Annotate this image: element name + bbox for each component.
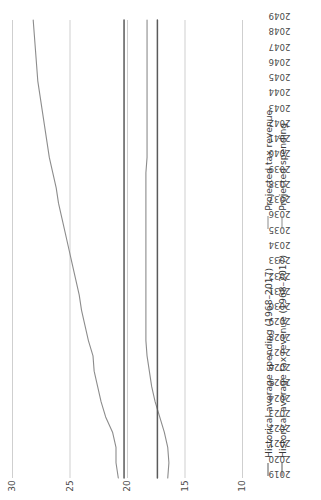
series-line — [33, 20, 118, 478]
series-group — [33, 20, 169, 478]
legend-item-label: Projected spending — [276, 123, 287, 211]
legend-columns: Historical average spending (1968–2017)H… — [262, 24, 287, 476]
legend-item[interactable]: Historical average tax revenue (1968–201… — [276, 255, 287, 476]
plot-svg-wrapper — [12, 20, 242, 478]
legend-line-swatch — [267, 463, 268, 476]
rotated-chart-canvas: 1015202530 20192020202120222023202420252… — [0, 0, 321, 500]
legend-item-label: Historical average spending (1968–2017) — [262, 268, 273, 458]
legend-column-right: Projected tax revenueProjected spending — [262, 110, 287, 229]
value-axis-tick-label: 10 — [237, 480, 246, 500]
legend-item[interactable]: Projected spending — [276, 110, 287, 229]
chart-legend: Historical average spending (1968–2017)H… — [262, 24, 287, 476]
legend-item[interactable]: Historical average spending (1968–2017) — [262, 255, 273, 476]
value-axis-tick-label: 25 — [65, 480, 74, 500]
legend-item-label: Projected tax revenue — [262, 110, 273, 211]
plot-area: 1015202530 20192020202120222023202420252… — [12, 20, 242, 478]
value-axis-tick-label: 30 — [7, 480, 16, 500]
legend-column-left: Historical average spending (1968–2017)H… — [262, 255, 287, 476]
gridlines-group — [12, 20, 242, 478]
legend-item[interactable]: Projected tax revenue — [262, 110, 273, 229]
year-axis-tick-label: 2049 — [262, 11, 296, 20]
legend-line-swatch — [281, 463, 282, 476]
legend-line-swatch — [267, 216, 268, 229]
legend-line-swatch — [281, 216, 282, 229]
value-axis-tick-label: 15 — [180, 480, 189, 500]
legend-item-label: Historical average tax revenue (1968–201… — [276, 255, 287, 458]
value-axis-tick-label: 20 — [122, 480, 131, 500]
line-chart-svg — [12, 20, 242, 478]
chart-figure: 1015202530 20192020202120222023202420252… — [0, 0, 321, 500]
